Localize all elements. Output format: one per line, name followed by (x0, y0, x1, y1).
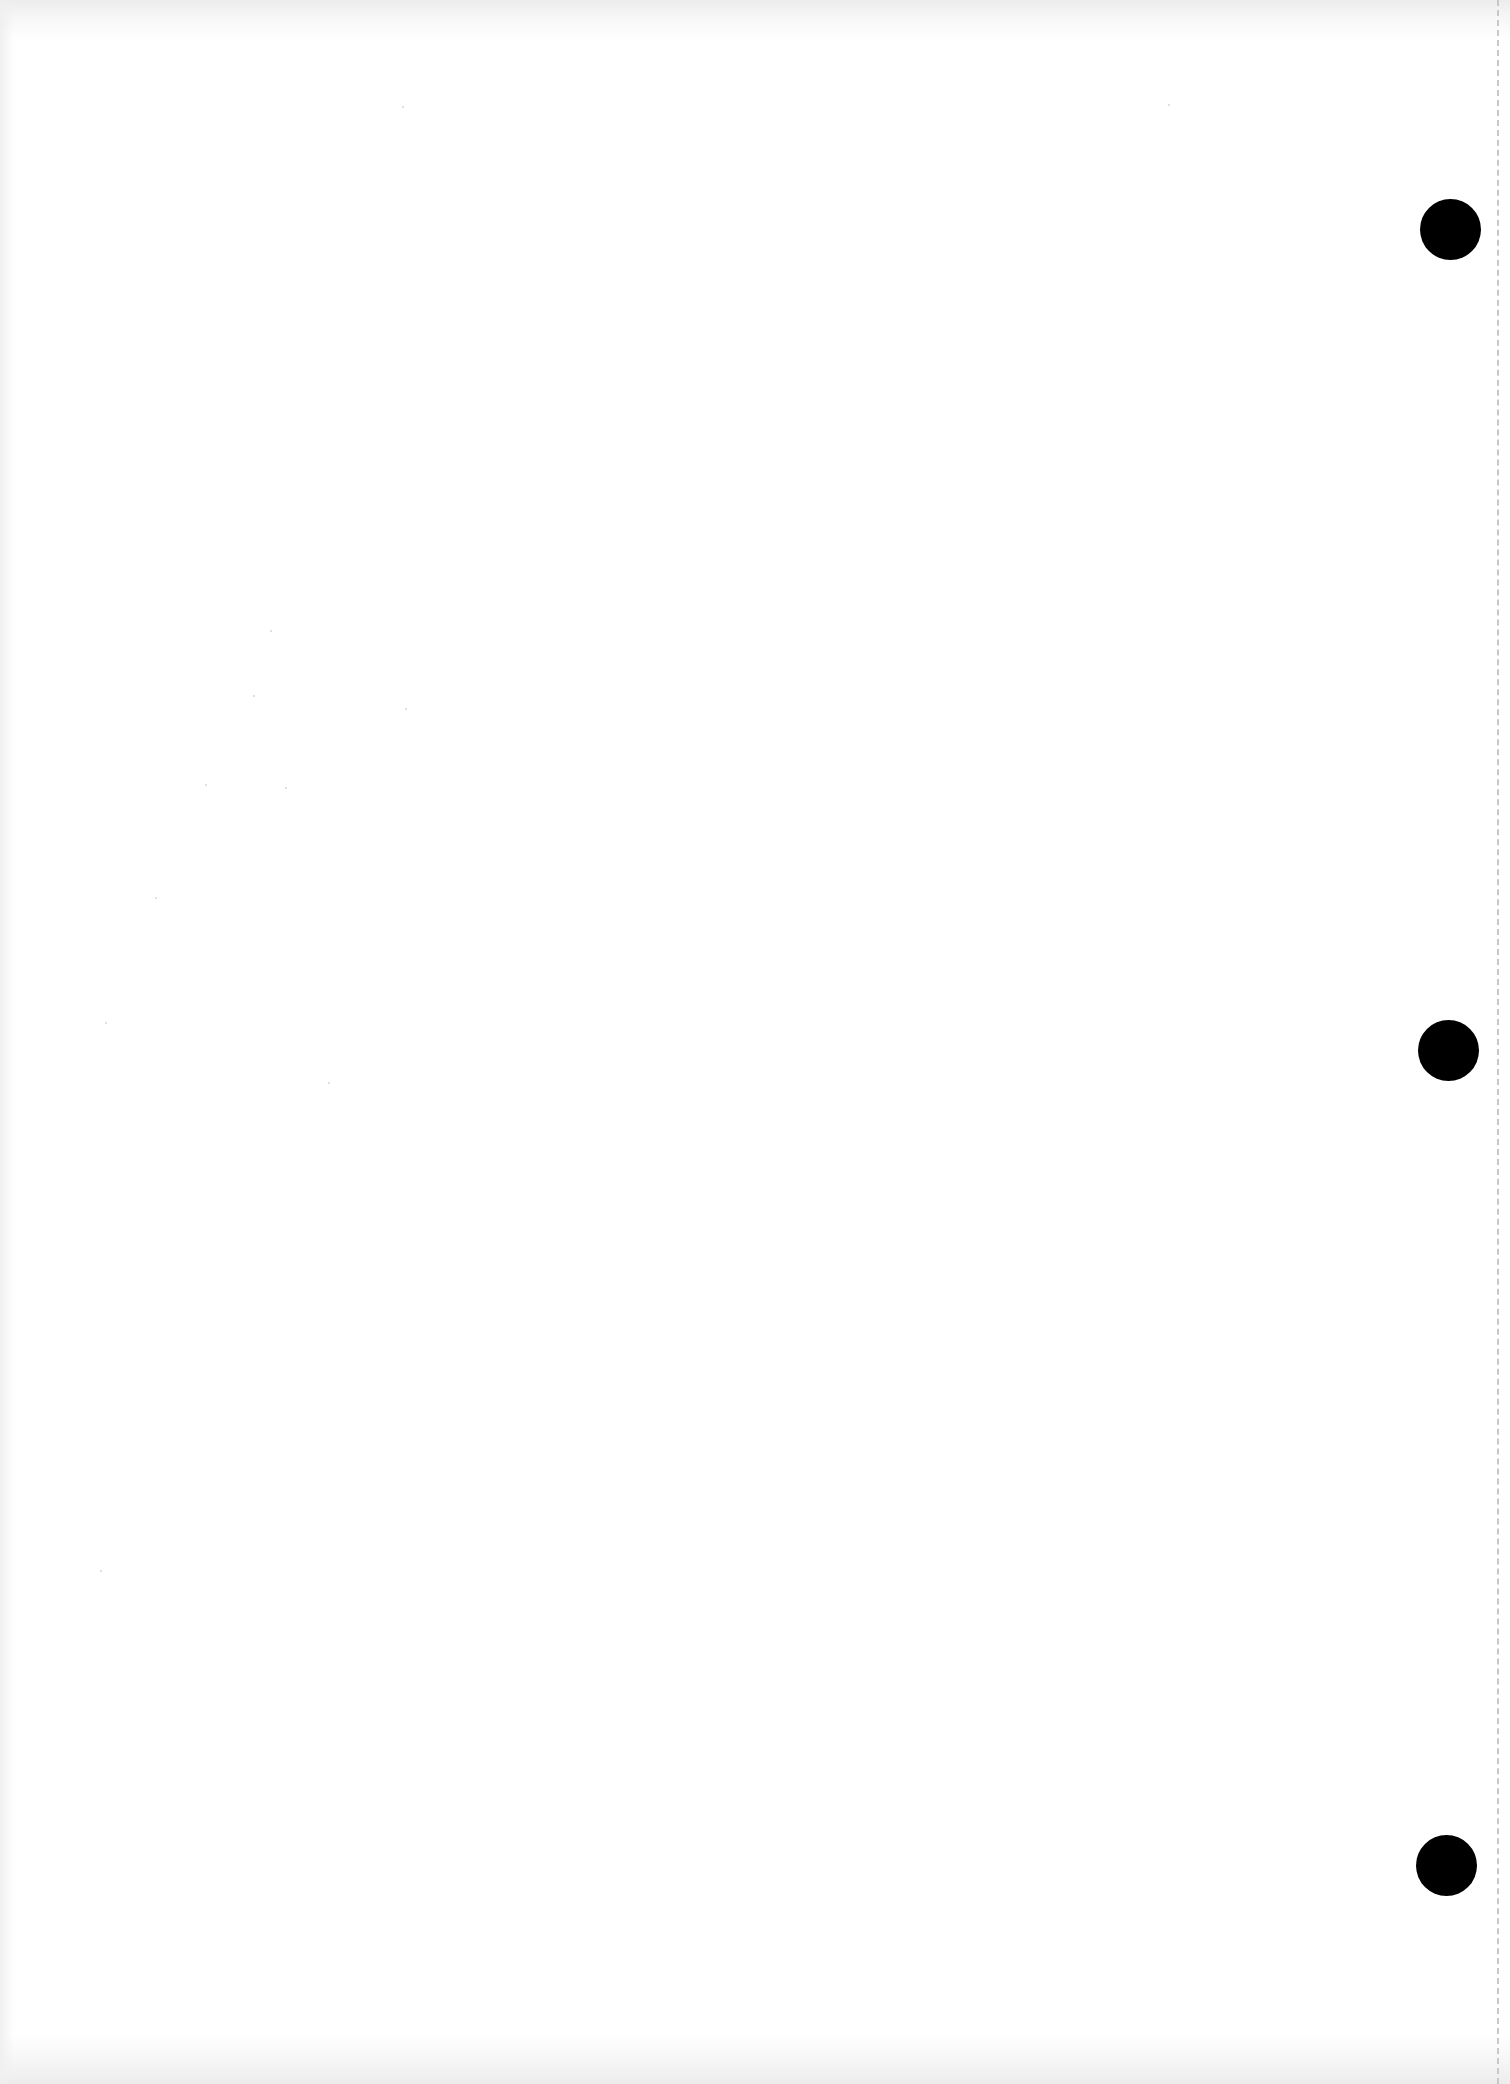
blank-page (0, 0, 1510, 2084)
scan-speck (100, 1570, 102, 1572)
scan-speck (105, 1022, 107, 1024)
scan-speck (285, 787, 287, 789)
scan-speck (405, 708, 407, 710)
perforation-line (1497, 0, 1499, 2084)
scan-edge-shadow-top (0, 0, 1510, 40)
scan-speck (328, 1082, 330, 1084)
scan-speck (155, 897, 157, 899)
punch-hole-middle (1418, 1020, 1479, 1081)
scan-speck (270, 630, 272, 632)
punch-hole-top (1420, 199, 1481, 260)
scan-speck (253, 695, 255, 697)
punch-hole-bottom (1416, 1835, 1477, 1896)
scan-speck (205, 784, 207, 786)
scan-speck (402, 106, 404, 108)
scan-edge-shadow-left (0, 0, 14, 2084)
scan-edge-shadow-bottom (0, 2034, 1510, 2084)
scan-speck (1168, 104, 1170, 106)
